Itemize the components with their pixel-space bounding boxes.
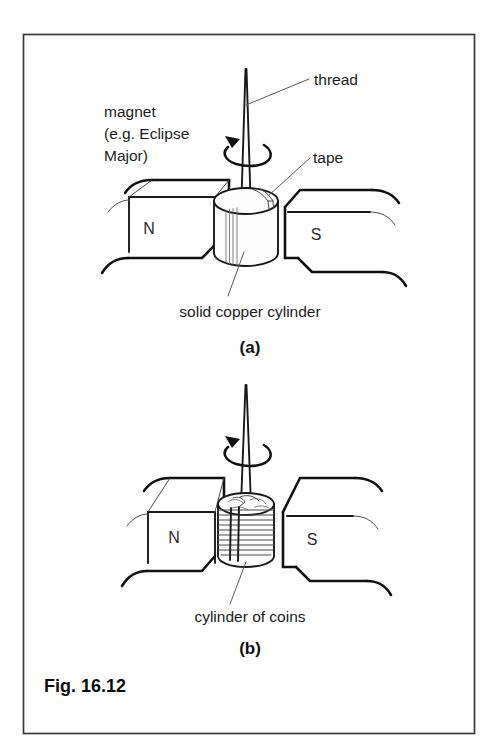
coin-cylinder-b	[218, 493, 274, 567]
label-magnet-line2: (e.g. Eclipse	[104, 125, 189, 142]
magnet-pole-south-a: S	[285, 190, 406, 286]
leader-coin-cylinder-b	[230, 562, 246, 604]
label-magnet-line1: magnet	[104, 103, 156, 120]
figure-caption: Fig. 16.12	[44, 676, 126, 696]
figure-illustration: N S	[0, 0, 500, 754]
thread-b	[241, 385, 251, 505]
leader-thread-a	[246, 79, 309, 105]
panel-a: N S	[102, 69, 406, 357]
thread-a	[242, 69, 251, 198]
rotation-arrow-a	[225, 136, 271, 166]
magnet-pole-north-a: N	[102, 180, 229, 273]
pole-label-north-a: N	[143, 220, 155, 237]
pole-label-south-b: S	[307, 531, 318, 548]
label-coin-cylinder-b: cylinder of coins	[194, 608, 305, 625]
panel-label-b: (b)	[239, 639, 261, 658]
magnet-pole-north-b: N	[122, 478, 224, 586]
copper-cylinder-a	[214, 188, 278, 266]
pole-label-north-b: N	[168, 529, 180, 546]
magnet-pole-south-b: S	[283, 478, 391, 595]
pole-label-south-a: S	[311, 226, 322, 243]
label-magnet-line3: Major)	[104, 147, 148, 164]
panel-b: N S	[122, 385, 391, 658]
label-tape-a: tape	[313, 149, 343, 166]
label-thread-a: thread	[314, 71, 358, 88]
label-copper-cylinder-a: solid copper cylinder	[179, 303, 320, 320]
panel-label-a: (a)	[240, 338, 261, 357]
figure-container: N S	[0, 0, 500, 754]
